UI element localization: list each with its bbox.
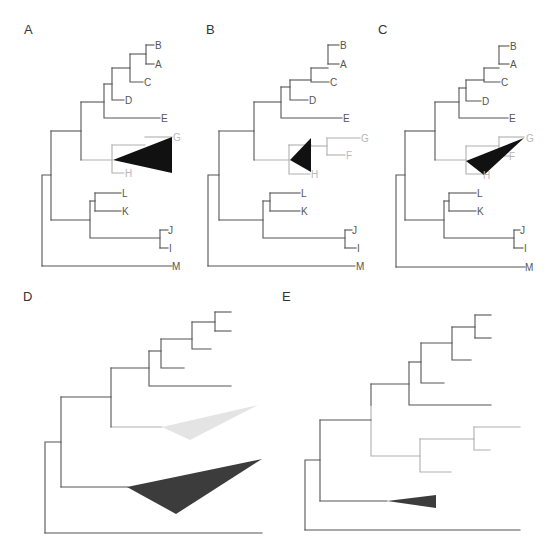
tip-label-k: K [301,206,308,217]
tip-label-h: H [125,168,132,179]
tip-label-e: E [161,113,168,124]
tip-label-k: K [477,206,484,217]
tip-label-i: I [357,243,360,254]
tip-label-c: C [330,77,337,88]
tip-label-m: M [172,261,180,272]
tip-label-a: A [510,59,517,70]
tip-label-f: F [346,150,352,161]
phylogenetic-tree-figure: ABACDEGHLKJIMBBACDEGFHLKJIMCBACDEGFHLKJI… [0,0,552,554]
tip-label-g: G [526,133,534,144]
tip-label-l: L [301,188,307,199]
tip-label-j: J [520,225,525,236]
panel-label: E [282,289,291,304]
tip-label-d: D [482,96,489,107]
tip-label-a: A [340,59,347,70]
tip-label-a: A [155,59,162,70]
tip-label-j: J [352,225,357,236]
tip-label-g: G [173,132,181,143]
tip-label-e: E [509,113,516,124]
tip-label-m: M [356,261,364,272]
tip-label-i: I [524,243,527,254]
tip-label-g: G [361,133,369,144]
tip-label-j: J [168,225,173,236]
tip-label-m: M [525,262,533,273]
panel-label: C [378,22,387,37]
panel-label: D [23,289,32,304]
tip-label-l: L [122,188,128,199]
panel-label: B [206,22,215,37]
tip-label-h: H [483,170,490,181]
tip-label-k: K [122,206,129,217]
tip-label-i: I [169,243,172,254]
tip-label-l: L [477,188,483,199]
tip-label-d: D [125,95,132,106]
tip-label-c: C [144,77,151,88]
tip-label-c: C [501,77,508,88]
panel-label: A [24,22,33,37]
tip-label-e: E [343,113,350,124]
tip-label-f: F [509,151,515,162]
tip-label-d: D [309,95,316,106]
tip-label-h: H [311,169,318,180]
tip-label-b: B [340,40,347,51]
tip-label-b: B [155,40,162,51]
figure-background [0,0,552,554]
tip-label-b: B [510,41,517,52]
